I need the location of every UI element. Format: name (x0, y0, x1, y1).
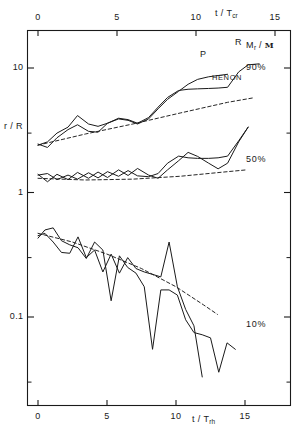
figure-container: t / Tcr t / Trh r / R Mr / M P R HENON 0… (0, 0, 307, 436)
mass-shell-label-50: 50% (246, 155, 266, 164)
top-tick-label-5: 5 (114, 13, 119, 22)
curve-label-r: R (235, 38, 242, 47)
bottom-tick-label-10: 10 (171, 412, 182, 421)
top-axis-title-main: t / T (215, 8, 232, 18)
bottom-axis-title: t / Trh (192, 415, 215, 426)
curve-label-p: P (200, 50, 206, 59)
right-axis-title-frak: M (265, 40, 273, 50)
top-tick-label-15: 15 (270, 13, 281, 22)
bottom-tick-label-0: 0 (35, 412, 40, 421)
left-tick-label-1: 1 (18, 188, 23, 197)
left-axis-title: r / R (4, 122, 23, 131)
curve-p-90% (38, 74, 228, 147)
curve-p-50% (38, 127, 248, 182)
curve-henon-90% (38, 98, 253, 145)
right-axis-title-slash: / (256, 40, 265, 50)
curve-label-henon: HENON (212, 74, 242, 82)
curve-p-10% (38, 228, 235, 372)
bottom-tick-label-5: 5 (104, 412, 109, 421)
bottom-axis-title-main: t / T (192, 414, 209, 424)
curve-henon-10% (38, 233, 217, 314)
right-axis-title-main: M (246, 40, 254, 50)
axes-frame (28, 31, 291, 406)
bottom-axis-title-sub: rh (209, 418, 215, 425)
curve-r-10% (38, 233, 202, 377)
left-tick-label-0.1: 0.1 (10, 312, 24, 321)
top-axis-title: t / Tcr (215, 9, 238, 20)
top-tick-label-0: 0 (35, 13, 40, 22)
right-axis-title: Mr / M (246, 41, 273, 52)
data-curves (38, 64, 259, 377)
mass-shell-label-10: 10% (246, 320, 266, 329)
mass-shell-label-90: 90% (246, 63, 266, 72)
top-axis-title-sub: cr (232, 12, 237, 19)
left-tick-label-10: 10 (13, 63, 24, 72)
axis-ticks (28, 31, 291, 406)
bottom-tick-label-15: 15 (240, 412, 251, 421)
top-tick-label-10: 10 (191, 13, 202, 22)
